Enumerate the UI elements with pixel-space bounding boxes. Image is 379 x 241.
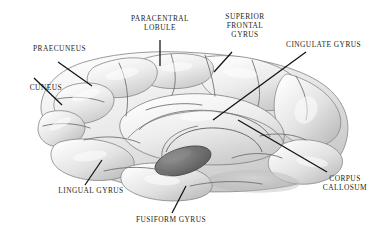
brain-anatomy-figure: Praecuneus Cuneus Paracentral Lobule Sup…	[0, 0, 379, 241]
label-lingual-gyrus: Lingual Gyrus	[43, 186, 139, 195]
label-superior-frontal-gyrus: Superior Frontal Gyrus	[212, 12, 278, 40]
label-cuneus: Cuneus	[2, 83, 62, 92]
label-praecuneus: Praecuneus	[6, 44, 86, 53]
label-cingulate-gyrus: Cingulate Gyrus	[286, 40, 378, 49]
label-fusiform-gyrus: Fusiform Gyrus	[119, 215, 223, 224]
label-corpus-callosum: Corpus Callosum	[313, 174, 377, 192]
label-paracentral-lobule: Paracentral Lobule	[118, 14, 202, 32]
brain-illustration	[0, 0, 379, 241]
cerebrum-group	[38, 52, 348, 201]
